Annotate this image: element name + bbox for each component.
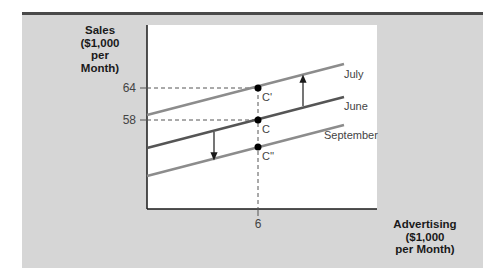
chart-svg: 64 58 6 C' C C'' July June September	[0, 0, 499, 280]
point-c-prime	[255, 85, 262, 92]
point-c	[255, 117, 262, 124]
point-c-double-prime	[255, 144, 262, 151]
label-c: C	[262, 123, 270, 135]
label-c-prime: C'	[262, 91, 272, 103]
label-june: June	[344, 100, 368, 112]
label-september: September	[324, 129, 378, 141]
label-july: July	[344, 68, 364, 80]
y-tick-label-64: 64	[123, 81, 137, 95]
x-tick-label-6: 6	[255, 217, 262, 231]
label-c-double-prime: C''	[262, 150, 274, 162]
y-tick-label-58: 58	[123, 113, 137, 127]
